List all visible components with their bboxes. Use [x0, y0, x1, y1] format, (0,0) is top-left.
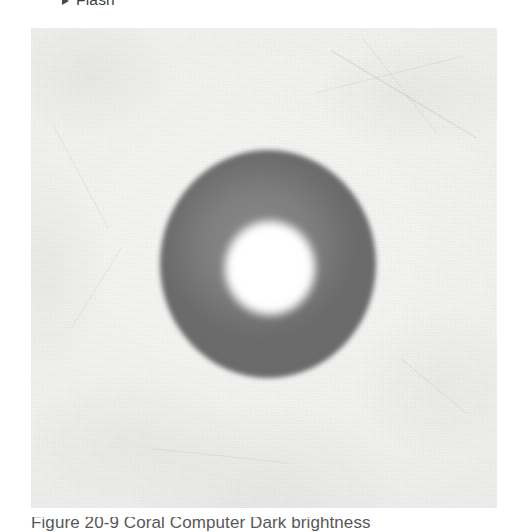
figure-caption: Figure 20-9 Coral Computer Dark brightne… — [31, 517, 518, 532]
annulus-center-hole — [220, 216, 320, 320]
triangle-right-icon — [62, 0, 69, 5]
running-head-label: Flash — [76, 0, 115, 9]
running-head: Flash — [0, 0, 518, 13]
annulus-shape — [160, 150, 376, 378]
figure-image — [31, 28, 497, 508]
figure-caption-text: Figure 20-9 Coral Computer Dark brightne… — [31, 517, 371, 532]
document-page: Flash Figure 20-9 Coral Computer Dark br… — [0, 0, 518, 532]
